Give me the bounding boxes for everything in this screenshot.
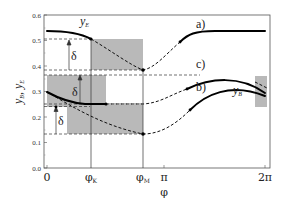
chart: 0.0 0.1 0.2 0.3 0.4 0.5 0.6 yB, yE 0 φK …: [0, 0, 299, 205]
curve-c-transition: [106, 89, 187, 104]
label-curve-b: b): [196, 80, 206, 94]
y-tick-2: 0.2: [32, 114, 41, 122]
label-curve-a: a): [196, 17, 205, 31]
curve-a-right: [180, 31, 265, 42]
y-axis-label: yB, yE: [11, 80, 25, 105]
x-tick-2pi: 2π: [258, 171, 272, 184]
label-y-e: yE: [79, 14, 89, 28]
shade-region-right: [255, 76, 267, 107]
x-tick-pi: π: [160, 171, 167, 184]
shade-region-top: [91, 39, 143, 70]
x-tick-phi-k: φK: [85, 171, 98, 184]
x-tick-0: 0: [44, 171, 51, 184]
y-tick-6: 0.6: [32, 12, 41, 20]
delta-label-bottom: δ: [58, 114, 64, 128]
delta-label-mid: δ: [72, 85, 78, 99]
x-axis-ticks: [47, 165, 265, 168]
delta-label-top: δ: [71, 49, 77, 63]
x-tick-phi-m: φM: [136, 171, 150, 184]
curve-a-left: [47, 31, 91, 39]
y-tick-3: 0.3: [32, 88, 41, 96]
label-curve-c: c): [196, 57, 205, 71]
y-tick-4: 0.4: [32, 63, 41, 71]
x-axis-label: φ: [160, 186, 168, 199]
y-tick-5: 0.5: [32, 37, 41, 45]
y-tick-0: 0.0: [32, 165, 41, 173]
y-tick-1: 0.1: [32, 139, 41, 147]
